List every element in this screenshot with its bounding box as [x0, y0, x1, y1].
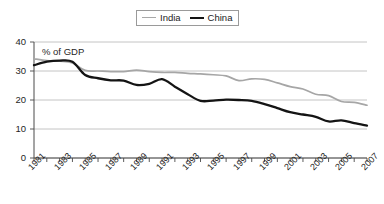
- y-tick-label: 40: [4, 36, 26, 47]
- y-tick-label: 30: [4, 65, 26, 76]
- y-tick-label: 10: [4, 123, 26, 134]
- plot-area: [0, 0, 384, 204]
- y-tick-label: 0: [4, 152, 26, 163]
- x-axis-ticks: [30, 42, 367, 162]
- gdp-line-chart: India China % of GDP 010203040 198119831…: [0, 0, 384, 204]
- series-line-india: [34, 59, 367, 105]
- y-tick-label: 20: [4, 94, 26, 105]
